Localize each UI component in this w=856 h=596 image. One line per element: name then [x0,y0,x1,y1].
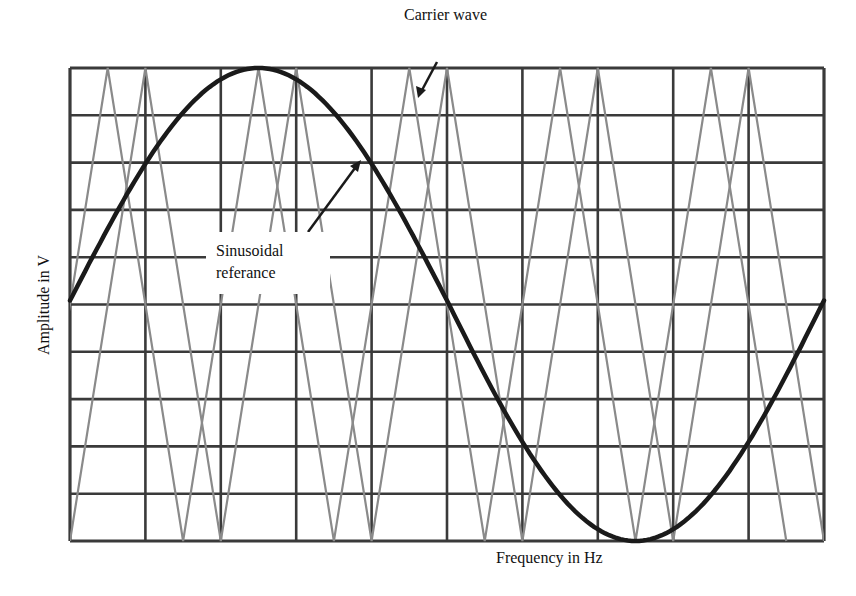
sinusoidal-reference-label: Sinusoidal referance [216,240,284,284]
pwm-diagram [0,0,856,596]
sine-label-line-2: referance [216,262,284,284]
y-axis-label: Amplitude in V [35,255,53,355]
x-axis-label: Frequency in Hz [496,549,603,567]
sine-label-line-1: Sinusoidal [216,240,284,262]
carrier-wave-label: Carrier wave [404,6,487,24]
sine-arrow [308,168,355,232]
